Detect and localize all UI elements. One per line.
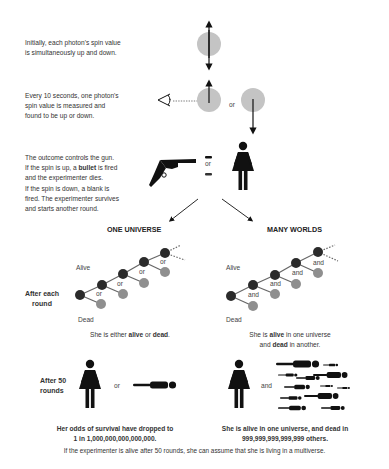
after-50-rounds-label: After 50 rounds <box>40 376 66 396</box>
step-gun-text: The outcome controls the gun. If the spi… <box>25 153 119 214</box>
many-worlds-result: She is alive in one universe, and dead i… <box>195 424 375 444</box>
one-universe-caption: She is either alive or dead. <box>60 330 200 340</box>
dead-figures-cluster-icon <box>276 360 350 410</box>
eye-icon <box>158 94 170 106</box>
diagram-graphics <box>0 0 389 469</box>
tree-connector: and <box>270 280 281 287</box>
after-50-or-label: or <box>114 382 120 389</box>
one-universe-dead-label: Dead <box>78 316 94 323</box>
tree-connector: or <box>117 280 123 287</box>
many-worlds-title: MANY WORLDS <box>267 225 322 234</box>
photon-up-icon <box>197 83 221 112</box>
tree-connector: or <box>96 290 102 297</box>
footer-conclusion: If the experimenter is alive after 50 ro… <box>0 446 389 456</box>
measure-or-label: or <box>229 101 235 108</box>
alive-woman-icon-many-worlds <box>228 360 250 408</box>
one-universe-title: ONE UNIVERSE <box>107 225 161 234</box>
step-initial-text: Initially, each photon's spin value is s… <box>25 38 121 58</box>
after-50-and-label: and <box>261 382 272 389</box>
one-universe-alive-label: Alive <box>76 264 90 271</box>
bullet-icon <box>205 156 212 159</box>
many-worlds-dead-label: Dead <box>226 316 242 323</box>
many-worlds-alive-label: Alive <box>226 264 240 271</box>
many-worlds-caption: She is alive in one universe and dead in… <box>220 330 360 350</box>
photon-superposition-icon <box>197 24 221 67</box>
tree-connector: and <box>313 259 324 266</box>
tree-connector: or <box>160 258 166 265</box>
one-universe-dead-nodes <box>96 267 170 309</box>
photon-down-icon <box>241 88 265 131</box>
many-worlds-dead-nodes <box>248 268 323 311</box>
tree-connector: and <box>248 291 259 298</box>
one-universe-result: Her odds of survival have dropped to 1 i… <box>30 424 200 444</box>
blank-icon <box>205 173 212 176</box>
gun-or-label: or <box>205 160 211 167</box>
experimenter-figure-icon <box>232 142 254 190</box>
tree-connector: and <box>292 269 303 276</box>
after-each-round-label: After each round <box>18 289 66 309</box>
dead-figure-icon <box>133 381 176 388</box>
revolver-icon <box>149 159 196 187</box>
step-measure-text: Every 10 seconds, one photon's spin valu… <box>25 91 119 122</box>
tree-connector: or <box>139 268 145 275</box>
alive-woman-icon <box>79 360 101 408</box>
